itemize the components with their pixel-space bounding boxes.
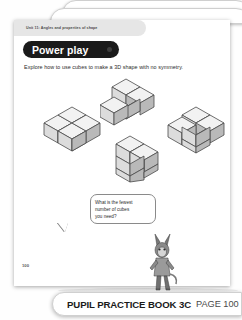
corner-page-number: 100 — [22, 263, 29, 268]
footer-ribbon: PUPIL PRACTICE BOOK 3C PAGE 100 — [52, 292, 242, 316]
speech-line-3: you need? — [95, 213, 154, 220]
footer-page-label: PAGE 100 — [191, 299, 239, 309]
power-play-label: Power play — [23, 44, 88, 56]
character-illustration — [146, 232, 182, 294]
t-shape-with-stacked-cube — [158, 103, 228, 161]
footer-book-label: PUPIL PRACTICE BOOK 3C — [53, 299, 191, 310]
instruction-text: Explore how to use cubes to make a 3D sh… — [24, 64, 224, 70]
speech-bubble: What is the fewest number of cubes you n… — [90, 194, 156, 224]
l-shape-with-stacked-cube — [100, 75, 162, 137]
power-play-banner: Power play — [23, 41, 119, 58]
speech-line-1: What is the fewest — [95, 199, 154, 206]
banner-dot-icon — [107, 47, 112, 52]
textbook-page: Unit 11: Angles and properties of shape … — [14, 20, 230, 286]
speech-bubble-tail — [58, 223, 68, 232]
cube-shapes-area — [14, 75, 230, 200]
speech-line-2: number of cubes — [95, 206, 154, 213]
speech-bubble-text: What is the fewest number of cubes you n… — [95, 199, 154, 220]
unit-header-label: Unit 11: Angles and properties of shape — [14, 26, 97, 30]
unit-header-tab: Unit 11: Angles and properties of shape — [14, 20, 146, 36]
page-root: Unit 11: Angles and properties of shape … — [0, 0, 242, 320]
